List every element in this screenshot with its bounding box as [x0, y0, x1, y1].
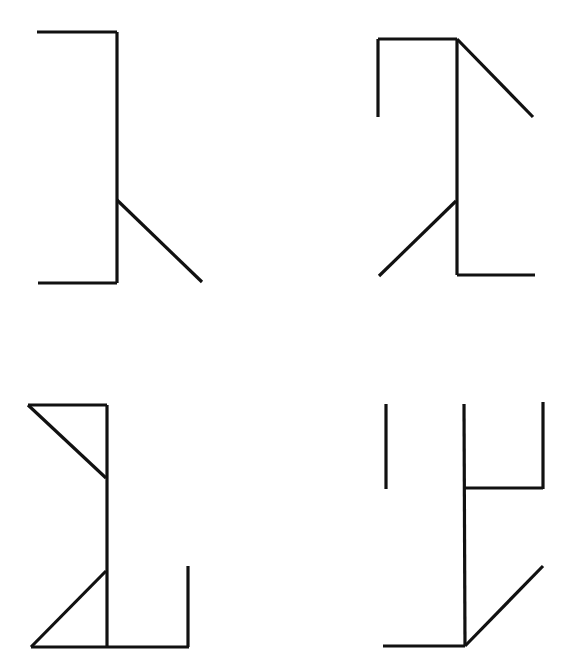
figure-bottom-left	[28, 405, 189, 647]
line-segment	[31, 571, 106, 647]
line-segment	[117, 200, 202, 282]
diagram-canvas	[0, 0, 573, 670]
figure-top-right	[378, 39, 535, 276]
line-segment	[465, 566, 543, 646]
line-segment	[28, 405, 106, 478]
figure-bottom-right	[383, 402, 543, 646]
line-segment	[379, 201, 456, 276]
line-segment	[457, 39, 533, 117]
figure-top-left	[37, 32, 202, 283]
line-segment	[464, 404, 465, 646]
